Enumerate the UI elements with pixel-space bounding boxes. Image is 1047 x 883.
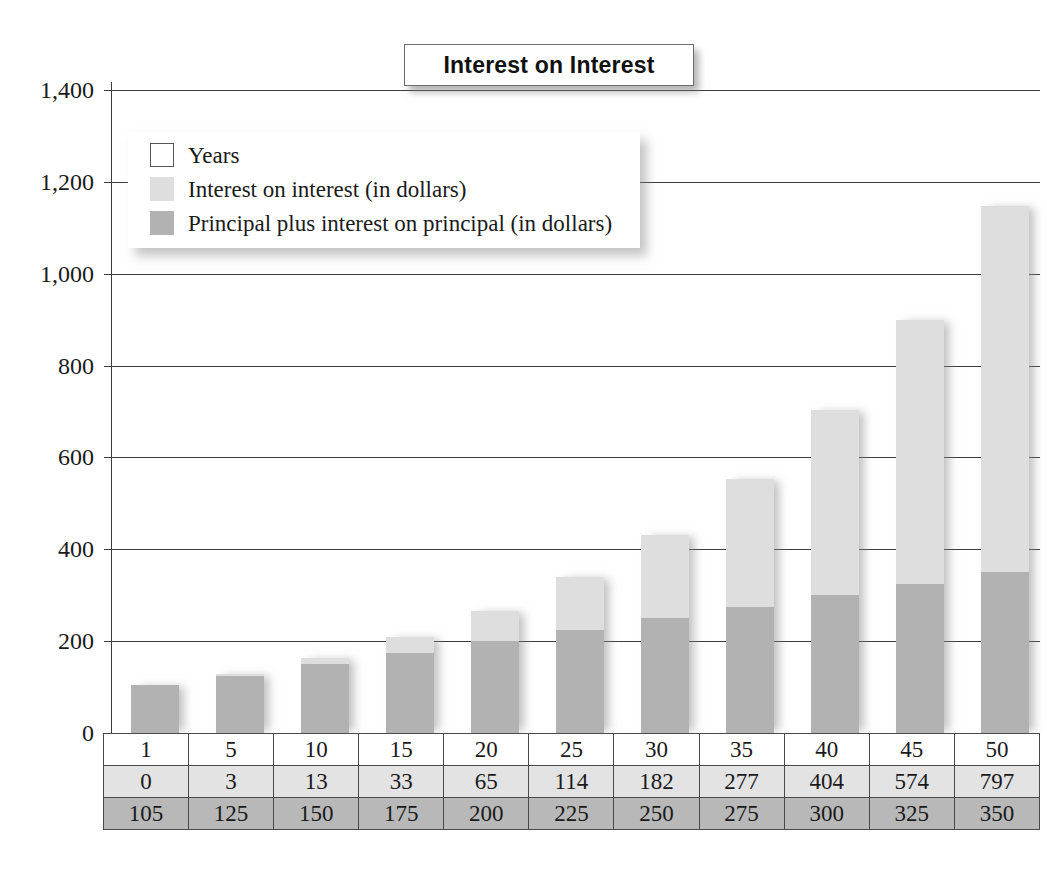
bar-stack [216, 674, 264, 733]
bar-segment-principal [641, 618, 689, 733]
table-cell: 250 [614, 798, 699, 830]
legend-item-label: Interest on interest (in dollars) [188, 178, 466, 201]
y-axis-tick-label: 1,200 [0, 170, 94, 194]
table-cell: 150 [274, 798, 359, 830]
table-row: 105125150175200225250275300325350 [104, 798, 1040, 830]
bar-stack [811, 410, 859, 733]
y-axis-labels: 02004006008001,0001,2001,400 [0, 0, 100, 883]
chart-legend: YearsInterest on interest (in dollars)Pr… [128, 132, 640, 248]
bar-segment-interest-on-interest [556, 577, 604, 629]
bar-segment-principal [811, 595, 859, 733]
table-cell: 0 [104, 766, 189, 798]
page-title: Interest on Interest [443, 52, 654, 79]
y-axis-tick-label: 0 [0, 721, 94, 745]
table-cell: 3 [189, 766, 274, 798]
table-cell: 65 [444, 766, 529, 798]
table-cell: 225 [529, 798, 614, 830]
legend-item: Years [128, 138, 640, 172]
table-cell: 200 [444, 798, 529, 830]
table-cell: 20 [444, 734, 529, 766]
table-cell: 404 [784, 766, 869, 798]
table-cell: 105 [104, 798, 189, 830]
y-axis-tick-label: 800 [0, 354, 94, 378]
bar-segment-interest-on-interest [641, 535, 689, 619]
table-cell: 15 [359, 734, 444, 766]
table-row: 15101520253035404550 [104, 734, 1040, 766]
table-cell: 325 [869, 798, 954, 830]
table-cell: 35 [699, 734, 784, 766]
table-cell: 45 [869, 734, 954, 766]
table-cell: 300 [784, 798, 869, 830]
bar-segment-principal [301, 664, 349, 733]
y-axis-tick-label: 600 [0, 445, 94, 469]
bar-stack [726, 479, 774, 733]
table-cell: 125 [189, 798, 274, 830]
legend-swatch-icon [150, 211, 174, 235]
table-cell: 574 [869, 766, 954, 798]
table-cell: 5 [189, 734, 274, 766]
table-cell: 25 [529, 734, 614, 766]
y-axis-tick-label: 200 [0, 629, 94, 653]
table-cell: 40 [784, 734, 869, 766]
bar-stack [981, 206, 1029, 733]
legend-item-label: Years [188, 144, 239, 167]
y-axis-tick-label: 1,000 [0, 262, 94, 286]
bar-segment-principal [131, 685, 179, 733]
bar-segment-interest-on-interest [726, 479, 774, 606]
bar-stack [556, 577, 604, 733]
bar-segment-principal [471, 641, 519, 733]
table-cell: 182 [614, 766, 699, 798]
bar-segment-interest-on-interest [811, 410, 859, 596]
table-cell: 10 [274, 734, 359, 766]
table-cell: 277 [699, 766, 784, 798]
table-row: 03133365114182277404574797 [104, 766, 1040, 798]
data-table: 1510152025303540455003133365114182277404… [103, 733, 1040, 830]
table-cell: 797 [954, 766, 1039, 798]
table-cell: 13 [274, 766, 359, 798]
bar-segment-principal [386, 653, 434, 733]
legend-item-label: Principal plus interest on principal (in… [188, 212, 612, 235]
bar-segment-principal [556, 630, 604, 733]
bar-segment-interest-on-interest [896, 320, 944, 584]
table-cell: 30 [614, 734, 699, 766]
table-cell: 50 [954, 734, 1039, 766]
legend-swatch-icon [150, 143, 174, 167]
bar-stack [471, 611, 519, 733]
bar-segment-principal [216, 676, 264, 733]
table-cell: 33 [359, 766, 444, 798]
bar-stack [301, 658, 349, 733]
y-axis-tick-label: 400 [0, 537, 94, 561]
legend-item: Interest on interest (in dollars) [128, 172, 640, 206]
table-cell: 114 [529, 766, 614, 798]
bar-segment-interest-on-interest [981, 206, 1029, 572]
table-cell: 275 [699, 798, 784, 830]
bar-stack [386, 637, 434, 733]
bar-stack [896, 320, 944, 733]
y-axis-tick-label: 1,400 [0, 78, 94, 102]
table-cell: 175 [359, 798, 444, 830]
bar-segment-interest-on-interest [386, 637, 434, 652]
chart-title-box: Interest on Interest [404, 44, 694, 86]
bar-segment-interest-on-interest [471, 611, 519, 641]
table-cell: 350 [954, 798, 1039, 830]
bar-segment-principal [726, 607, 774, 733]
bar-stack [131, 685, 179, 733]
bar-stack [641, 535, 689, 733]
legend-swatch-icon [150, 177, 174, 201]
bar-segment-principal [981, 572, 1029, 733]
table-cell: 1 [104, 734, 189, 766]
bar-segment-principal [896, 584, 944, 733]
legend-item: Principal plus interest on principal (in… [128, 206, 640, 240]
